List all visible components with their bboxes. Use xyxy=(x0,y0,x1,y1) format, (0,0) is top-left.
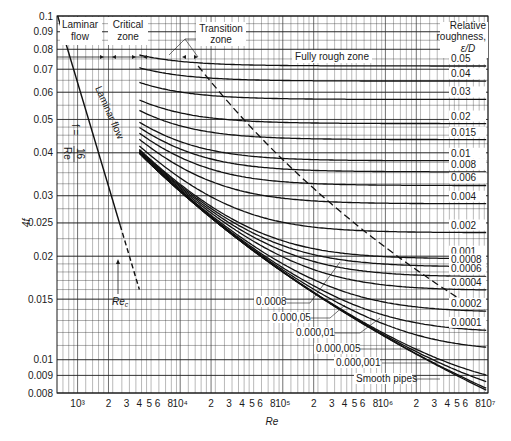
x-tick-label: 4 xyxy=(137,398,143,409)
roughness-label: 0.004 xyxy=(451,191,476,202)
label-0.000,01: 0.000,01 xyxy=(296,327,335,338)
roughness-label: 0.05 xyxy=(451,53,471,64)
x-tick-label: 3 xyxy=(432,398,438,409)
roughness-label: 0.015 xyxy=(451,127,476,138)
zone-laminar-label: Laminar xyxy=(62,19,99,30)
y-tick-label: 0.009 xyxy=(28,370,53,381)
axis-ticks: 0.10.090.080.070.060.050.040.030.0250.02… xyxy=(28,11,496,410)
roughness-label: 0.006 xyxy=(451,172,476,183)
critical-re-label: Rec xyxy=(112,296,129,308)
x-tick-label: 10⁵ xyxy=(275,398,290,409)
roughness-label: 0.04 xyxy=(451,68,471,79)
x-axis-title: Re xyxy=(266,416,279,427)
x-tick-label: 6 xyxy=(257,398,263,409)
curve-0.03 xyxy=(139,82,486,99)
roughness-label: 0.02 xyxy=(451,111,471,122)
zone-critical-label-2: zone xyxy=(117,31,139,42)
laminar-line-label: Laminar flow xyxy=(93,84,126,141)
label-0.000,005: 0.000,005 xyxy=(316,343,361,354)
x-tick-label: 6 xyxy=(360,398,366,409)
x-tick-label: 2 xyxy=(208,398,214,409)
y-tick-label: 0.1 xyxy=(39,11,53,22)
roughness-label: 0.008 xyxy=(451,159,476,170)
zone-fully-rough-label: Fully rough zone xyxy=(295,51,369,62)
roughness-label: 0.0004 xyxy=(451,277,482,288)
y-axis-title: 4f xyxy=(21,218,32,228)
y-tick-label: 0.06 xyxy=(34,87,54,98)
x-tick-label: 10⁴ xyxy=(172,398,187,409)
x-tick-label: 5 xyxy=(454,398,460,409)
x-tick-label: 2 xyxy=(311,398,317,409)
curve-0.008 xyxy=(139,128,486,172)
y-tick-label: 0.08 xyxy=(34,44,54,55)
equation-f: f = xyxy=(70,124,81,136)
curve-0.0001 xyxy=(139,153,486,331)
transition-boundary xyxy=(198,66,475,309)
x-tick-label: 10³ xyxy=(70,398,85,409)
roughness-label: 0.01 xyxy=(451,148,471,159)
x-tick-label: 4 xyxy=(342,398,348,409)
y-tick-label: 0.01 xyxy=(34,354,54,365)
y-tick-label: 0.09 xyxy=(34,26,54,37)
moody-chart: 0.10.090.080.070.060.050.040.030.0250.02… xyxy=(0,0,511,441)
x-tick-label: 10⁷ xyxy=(481,398,496,409)
zone-critical-label: Critical xyxy=(113,19,144,30)
zone-transition-label: Transition xyxy=(199,23,243,34)
x-tick-label: 4 xyxy=(239,398,245,409)
x-tick-label: 10⁶ xyxy=(378,398,393,409)
curve-Smooth pipes xyxy=(139,153,486,390)
x-tick-label: 3 xyxy=(226,398,232,409)
roughness-label: 0.03 xyxy=(451,86,471,97)
y-tick-label: 0.07 xyxy=(34,64,54,75)
zone-transition-label-2: zone xyxy=(210,34,232,45)
label-smooth-pipes: Smooth pipes xyxy=(356,373,417,384)
laminar-annotations: Laminar flow f = 16 Re Rec xyxy=(62,84,129,308)
x-tick-label: 5 xyxy=(249,398,255,409)
x-tick-label: 6 xyxy=(462,398,468,409)
label-0.000,05: 0.000,05 xyxy=(272,312,311,323)
y-tick-label: 0.05 xyxy=(34,114,54,125)
label-0.0008: 0.0008 xyxy=(256,296,287,307)
x-tick-label: 3 xyxy=(329,398,335,409)
equation-denominator: Re xyxy=(62,147,73,160)
x-tick-label: 2 xyxy=(414,398,420,409)
roughness-header-2: roughness, xyxy=(437,31,486,42)
x-tick-label: 3 xyxy=(124,398,130,409)
zone-laminar-label-2: flow xyxy=(71,31,90,42)
x-tick-label: 5 xyxy=(147,398,153,409)
laminar-line-dashed xyxy=(120,225,139,289)
x-tick-label: 6 xyxy=(155,398,161,409)
equation-numerator: 16 xyxy=(75,148,86,160)
roughness-label: 0.0002 xyxy=(451,298,482,309)
y-tick-label: 0.04 xyxy=(34,147,54,158)
x-tick-label: 5 xyxy=(352,398,358,409)
curve-0.002 xyxy=(139,146,486,233)
roughness-label: 0.0006 xyxy=(451,263,482,274)
label-0.000,001: 0.000,001 xyxy=(336,357,381,368)
y-tick-label: 0.015 xyxy=(28,294,53,305)
curve-0.02 xyxy=(139,100,486,124)
x-tick-label: 2 xyxy=(106,398,112,409)
roughness-label: 0.0001 xyxy=(451,317,482,328)
zone-labels: Laminar flow Critical zone Transition zo… xyxy=(57,17,372,63)
y-tick-label: 0.02 xyxy=(34,251,54,262)
roughness-labels: 0.050.040.030.020.0150.010.0080.0060.004… xyxy=(449,53,486,328)
y-tick-label: 0.008 xyxy=(28,388,53,399)
y-tick-label: 0.03 xyxy=(34,190,54,201)
curve-0.04 xyxy=(139,68,486,81)
roughness-label: 0.002 xyxy=(451,220,476,231)
roughness-header-1: Relative xyxy=(450,20,487,31)
curve-0.0008 xyxy=(139,150,486,267)
x-tick-label: 4 xyxy=(444,398,450,409)
